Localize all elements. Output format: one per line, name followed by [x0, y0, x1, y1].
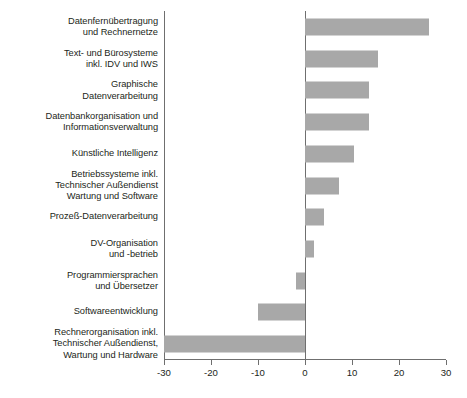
category-label: Softwareentwicklung [0, 307, 158, 318]
x-tick-label: 10 [347, 367, 358, 378]
x-tick [446, 360, 447, 365]
bar [305, 18, 429, 35]
bar [305, 177, 339, 194]
category-label: Text- und Bürosysteme inkl. IDV und IWS [0, 47, 158, 69]
bar [164, 336, 305, 353]
category-label: Prozeß-Datenverarbeitung [0, 212, 158, 223]
bar [296, 272, 305, 289]
category-axis: Datenfernübertragung und RechnernetzeTex… [0, 0, 158, 360]
bar [305, 240, 314, 257]
plot-area [164, 11, 446, 360]
category-label: Programmiersprachen und Übersetzer [0, 269, 158, 291]
x-tick [164, 360, 165, 365]
category-label: Rechnerorganisation inkl. Technischer Au… [0, 327, 158, 361]
bar [305, 82, 369, 99]
bar [258, 304, 305, 321]
x-tick-label: 20 [394, 367, 405, 378]
category-label: Künstliche Intelligenz [0, 148, 158, 159]
x-tick [352, 360, 353, 365]
bar [305, 50, 378, 67]
category-label: Graphische Datenverarbeitung [0, 79, 158, 101]
x-tick-label: 0 [302, 367, 307, 378]
x-tick-label: 30 [441, 367, 452, 378]
category-label: Datenbankorganisation und Informationsve… [0, 111, 158, 133]
horizontal-bar-chart: Datenfernübertragung und RechnernetzeTex… [0, 0, 467, 398]
x-tick [258, 360, 259, 365]
category-label: Betriebssysteme inkl. Technischer Außend… [0, 169, 158, 203]
left-spine [164, 11, 165, 360]
bar [305, 114, 369, 131]
x-tick [305, 360, 306, 365]
category-label: Datenfernübertragung und Rechnernetze [0, 16, 158, 38]
x-axis: -30-20-100102030 [164, 360, 446, 398]
x-tick-label: -20 [204, 367, 218, 378]
bar [305, 145, 354, 162]
bar [305, 209, 324, 226]
category-label: DV-Organisation und -betrieb [0, 238, 158, 260]
x-tick-label: -30 [157, 367, 171, 378]
x-tick [399, 360, 400, 365]
x-tick-label: -10 [251, 367, 265, 378]
x-tick [211, 360, 212, 365]
